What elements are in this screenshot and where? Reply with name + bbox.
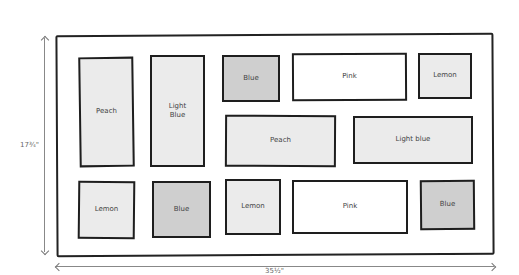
block-label: Blue	[243, 74, 259, 83]
block-blue-bottom-left: Blue	[152, 181, 211, 238]
block-label: Light Blue	[169, 102, 186, 120]
block-blue-top: Blue	[222, 55, 280, 102]
block-pink-bottom: Pink	[292, 180, 408, 234]
arrow-down-icon	[41, 247, 49, 255]
height-dimension-label: 17¾"	[20, 141, 39, 149]
block-peach-wide: Peach	[225, 115, 336, 168]
height-dimension-line	[44, 38, 45, 252]
block-label: Blue	[174, 205, 190, 214]
arrow-right-icon	[488, 263, 496, 271]
block-label: Peach	[96, 107, 117, 116]
arrow-up-icon	[41, 36, 49, 44]
block-label: Lemon	[95, 205, 119, 214]
block-lemon-bottom-left: Lemon	[78, 181, 136, 240]
block-lemon-bottom-mid: Lemon	[225, 179, 281, 235]
block-label: Light blue	[396, 135, 431, 144]
block-blue-bottom-right: Blue	[420, 180, 475, 230]
block-light-blue-tall: Light Blue	[150, 55, 205, 167]
block-label: Peach	[270, 136, 291, 145]
block-label: Pink	[343, 202, 358, 211]
block-label: Lemon	[241, 202, 265, 211]
block-pink-top: Pink	[292, 53, 407, 102]
arrow-left-icon	[55, 263, 63, 271]
block-peach-tall: Peach	[78, 57, 135, 168]
block-label: Blue	[440, 200, 456, 209]
block-light-blue-wide: Light blue	[353, 116, 473, 164]
block-label: Lemon	[433, 71, 457, 80]
block-label: Pink	[342, 72, 357, 81]
width-dimension-label: 35½"	[265, 267, 284, 275]
block-lemon-top: Lemon	[418, 53, 472, 99]
